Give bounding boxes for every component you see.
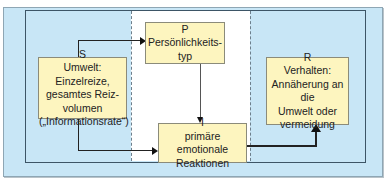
- node-i-emotional-reactions: I primäre emotionale Reaktionen: [158, 123, 247, 163]
- node-s-environment: S Umwelt: Einzelreize, gesamtes Reiz- vo…: [38, 57, 127, 119]
- node-s-line-1: Umwelt: Einzelreize,: [39, 61, 126, 88]
- right-dashed-divider: [250, 11, 251, 161]
- node-i-line-1: primäre emotionale: [159, 130, 246, 157]
- node-p-letter: P: [146, 23, 224, 37]
- node-r-line-2: Annäherung an die: [267, 78, 348, 105]
- node-p-line-2: typ: [146, 50, 224, 64]
- edge-i-r-vertical: [315, 131, 317, 147]
- node-r-line-1: Verhalten:: [267, 64, 348, 78]
- node-s-line-2: gesamtes Reiz-: [39, 88, 126, 102]
- node-s-line-3: volumen: [39, 102, 126, 116]
- left-dashed-divider: [131, 11, 132, 161]
- edge-i-r-horizontal: [245, 145, 317, 147]
- node-i-line-2: Reaktionen: [159, 157, 246, 171]
- node-s-letter: S: [39, 48, 126, 62]
- node-s-line-4: („Informationsrate“): [39, 115, 126, 129]
- node-p-personality: P Persönlichkeits- typ: [145, 22, 225, 64]
- node-p-line-1: Persönlichkeits-: [146, 36, 224, 50]
- edge-s-i-horizontal: [78, 150, 153, 151]
- node-r-line-3: Umwelt oder: [267, 105, 348, 119]
- edge-p-i-vertical: [200, 62, 201, 120]
- node-r-letter: R: [267, 51, 348, 65]
- node-r-line-4: vermeidung: [267, 118, 348, 132]
- node-i-letter: I: [159, 116, 246, 130]
- node-r-behavior: R Verhalten: Annäherung an die Umwelt od…: [266, 57, 349, 125]
- edge-s-p-horizontal: [78, 40, 141, 41]
